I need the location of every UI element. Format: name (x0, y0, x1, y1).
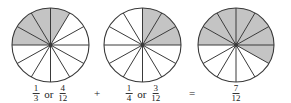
fraction-one-third: 1 3 (33, 84, 40, 103)
circle-one-fourth (104, 8, 181, 82)
label-one-fourth: 1 4 or 3 12 (126, 84, 161, 103)
denominator: 12 (58, 94, 67, 103)
equals-sign: = (189, 87, 195, 99)
circle-one-third (12, 8, 89, 82)
plus-sign: + (94, 87, 100, 99)
circle-seven-twelfths (198, 8, 274, 82)
center-dot (141, 43, 145, 47)
fraction-seven-twelfths: 7 12 (232, 84, 241, 103)
or-text: or (137, 88, 146, 100)
denominator: 4 (127, 94, 132, 103)
fraction-four-twelfths: 4 12 (58, 84, 67, 103)
denominator: 12 (232, 94, 241, 103)
center-dot (49, 43, 53, 47)
label-seven-twelfths: 7 12 (232, 84, 241, 103)
denominator: 3 (34, 94, 39, 103)
denominator: 12 (151, 94, 160, 103)
fraction-three-twelfths: 3 12 (151, 84, 160, 103)
label-one-third: 1 3 or 4 12 (33, 84, 68, 103)
or-text: or (44, 88, 53, 100)
center-dot (234, 43, 238, 47)
fraction-one-fourth: 1 4 (126, 84, 133, 103)
